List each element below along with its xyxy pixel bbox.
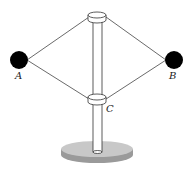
label-c: C (106, 103, 114, 114)
string-a-to-c (27, 60, 89, 99)
apparatus-diagram: A B C (0, 0, 190, 172)
collar-c-cap (88, 94, 106, 100)
ball-a[interactable] (10, 51, 28, 69)
label-a: A (14, 70, 22, 81)
label-b: B (168, 70, 176, 81)
ball-b[interactable] (165, 51, 183, 69)
string-top-to-b (106, 17, 166, 60)
pole (93, 16, 102, 154)
collar-c[interactable] (88, 94, 106, 105)
string-top-to-a (27, 17, 89, 60)
top-collar-cap (88, 12, 106, 18)
pole-foot (93, 151, 102, 154)
string-b-to-c (106, 60, 166, 99)
pole-body (93, 16, 102, 152)
top-collar (88, 12, 106, 23)
